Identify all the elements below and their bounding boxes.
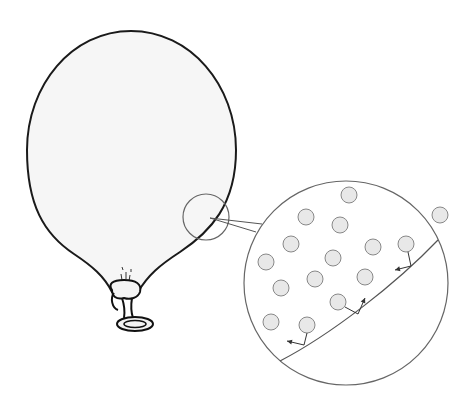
gas-particle — [299, 317, 315, 333]
gas-particle — [332, 217, 348, 233]
balloon-gas-pressure-diagram — [0, 0, 463, 404]
gas-particle — [325, 250, 341, 266]
gas-particle — [341, 187, 357, 203]
gas-particle — [398, 236, 414, 252]
gas-particle — [330, 294, 346, 310]
balloon-mouth-rim — [117, 317, 153, 331]
gas-particle — [283, 236, 299, 252]
magnifier-connector — [210, 218, 262, 232]
gas-particle — [307, 271, 323, 287]
gas-particle — [432, 207, 448, 223]
balloon — [27, 31, 236, 331]
gas-particle — [298, 209, 314, 225]
gas-particle — [258, 254, 274, 270]
balloon-body — [27, 31, 236, 292]
gas-particle — [357, 269, 373, 285]
gas-particle — [365, 239, 381, 255]
gas-particle — [273, 280, 289, 296]
gas-particle — [263, 314, 279, 330]
